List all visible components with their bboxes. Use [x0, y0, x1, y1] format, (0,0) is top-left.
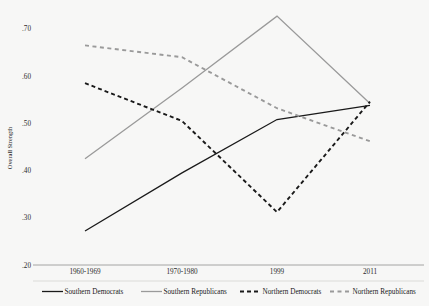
legend-label: Northern Republicans: [353, 288, 416, 296]
legend-label: Northern Democrats: [263, 288, 322, 296]
legend-label: Southern Democrats: [65, 288, 124, 296]
y-tick-label: .20: [22, 262, 31, 270]
chart-container: Overall Strength .20.30.40.50.60.70 1960…: [0, 0, 429, 306]
legend-label: Southern Republicans: [164, 288, 227, 296]
y-axis-title: Overall Strength: [6, 126, 13, 169]
y-tick-label: .60: [22, 73, 31, 81]
y-tick-label: .30: [22, 214, 31, 222]
y-tick-label: .40: [22, 167, 31, 175]
x-tick-label: 1970-1980: [166, 268, 198, 276]
y-tick-label: .50: [22, 120, 31, 128]
x-tick-label: 1960-1969: [69, 268, 101, 276]
y-tick-label: .70: [22, 25, 31, 33]
x-tick-label: 2011: [363, 268, 378, 276]
line-chart: Overall Strength .20.30.40.50.60.70 1960…: [0, 0, 429, 306]
x-tick-label: 1999: [270, 268, 285, 276]
